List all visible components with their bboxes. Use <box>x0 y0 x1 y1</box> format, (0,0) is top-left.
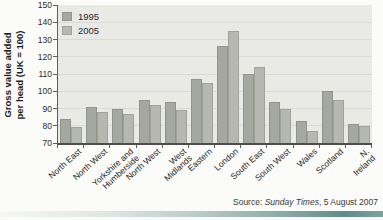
bar-1995-n-ireland-11 <box>348 124 359 143</box>
x-tick-mark-10 <box>319 145 320 148</box>
bar-1995-eastern-5 <box>191 79 202 143</box>
y-tick-label-150: 150 <box>26 0 52 10</box>
x-category-label-eastern-5: Eastern <box>186 147 214 173</box>
bar-2005-scotland-10 <box>333 100 344 143</box>
legend-row-1995: 1995 <box>62 10 99 23</box>
gridline-140 <box>58 22 372 23</box>
y-tick-label-130: 130 <box>26 35 52 45</box>
x-tick-mark-8 <box>266 145 267 148</box>
bar-2005-north-east-0 <box>71 127 82 143</box>
y-axis-title-line1: Gross value added <box>2 0 14 150</box>
y-tick-mark-90 <box>53 108 57 109</box>
bar-2005-south-west-8 <box>280 109 291 144</box>
y-tick-mark-120 <box>53 56 57 57</box>
bar-group-south-east-7 <box>243 67 265 143</box>
y-axis-title-line2: per head (UK = 100) <box>14 0 26 150</box>
gridline-120 <box>58 56 372 57</box>
bar-group-north-west-3 <box>139 100 161 143</box>
y-tick-mark-100 <box>53 91 57 92</box>
bar-group-south-west-8 <box>269 102 291 143</box>
bar-group-west-midlands-4 <box>165 102 187 143</box>
source-publication: Sunday Times <box>265 197 319 207</box>
legend-label-2005: 2005 <box>78 25 99 36</box>
gridline-130 <box>58 39 372 40</box>
y-tick-mark-80 <box>53 125 57 126</box>
bar-1995-wales-9 <box>296 121 307 143</box>
bar-2005-north-west-1 <box>97 112 108 143</box>
x-tick-mark-3 <box>136 145 137 148</box>
bar-2005-wales-9 <box>307 131 318 143</box>
bar-group-scotland-10 <box>322 91 344 143</box>
y-tick-mark-140 <box>53 22 57 23</box>
bar-group-eastern-5 <box>191 79 213 143</box>
bottom-gradient-band <box>0 211 383 217</box>
y-tick-label-140: 140 <box>26 17 52 27</box>
bar-1995-north-west-1 <box>86 107 97 143</box>
x-tick-mark-6 <box>214 145 215 148</box>
bar-2005-yorkshire-and-humberside-2 <box>123 114 134 143</box>
y-tick-label-110: 110 <box>26 69 52 79</box>
x-tick-mark-2 <box>109 145 110 148</box>
bar-2005-south-east-7 <box>254 67 265 143</box>
y-axis-title: Gross value added per head (UK = 100) <box>2 0 26 150</box>
x-category-label-scotland-10: Scotland <box>314 147 345 176</box>
bar-group-n-ireland-11 <box>348 124 370 143</box>
gridline-110 <box>58 74 372 75</box>
bar-1995-west-midlands-4 <box>165 102 176 143</box>
bar-group-wales-9 <box>296 121 318 143</box>
y-tick-label-90: 90 <box>26 104 52 114</box>
bar-group-north-east-0 <box>60 119 82 143</box>
y-tick-label-100: 100 <box>26 86 52 96</box>
bar-1995-yorkshire-and-humberside-2 <box>112 109 123 144</box>
legend-label-1995: 1995 <box>78 11 99 22</box>
x-tick-mark-5 <box>188 145 189 148</box>
source-line: Source: Sunday Times, 5 August 2007 <box>233 197 378 207</box>
source-suffix: , 5 August 2007 <box>319 197 378 207</box>
x-tick-mark-1 <box>83 145 84 148</box>
legend-swatch-2005 <box>62 26 72 35</box>
x-tick-mark-7 <box>240 145 241 148</box>
y-tick-mark-110 <box>53 74 57 75</box>
bar-1995-south-east-7 <box>243 74 254 143</box>
chart-figure: Gross value added per head (UK = 100) 19… <box>0 0 383 220</box>
y-tick-label-70: 70 <box>26 138 52 148</box>
bar-2005-north-west-3 <box>150 105 161 143</box>
x-tick-mark-4 <box>162 145 163 148</box>
bar-group-london-6 <box>217 31 239 143</box>
y-tick-label-120: 120 <box>26 52 52 62</box>
bar-1995-london-6 <box>217 46 228 143</box>
bar-2005-london-6 <box>228 31 239 143</box>
x-tick-mark-12 <box>371 145 372 148</box>
x-category-label-n-ireland-11: N. Ireland <box>346 147 377 178</box>
legend-swatch-1995 <box>62 12 72 21</box>
bar-1995-north-east-0 <box>60 119 71 143</box>
x-tick-mark-9 <box>293 145 294 148</box>
y-tick-label-80: 80 <box>26 121 52 131</box>
x-tick-mark-11 <box>345 145 346 148</box>
bar-1995-south-west-8 <box>269 102 280 143</box>
source-prefix: Source: <box>233 197 265 207</box>
plot-area <box>57 5 372 145</box>
bar-1995-scotland-10 <box>322 91 333 143</box>
bar-2005-eastern-5 <box>202 83 213 143</box>
bar-group-yorkshire-and-humberside-2 <box>112 109 134 144</box>
legend: 1995 2005 <box>62 10 99 38</box>
x-tick-mark-0 <box>57 145 58 148</box>
bar-2005-west-midlands-4 <box>176 110 187 143</box>
y-tick-mark-150 <box>53 5 57 6</box>
legend-row-2005: 2005 <box>62 24 99 37</box>
bar-1995-north-west-3 <box>139 100 150 143</box>
bar-2005-n-ireland-11 <box>359 126 370 143</box>
y-tick-mark-70 <box>53 143 57 144</box>
y-tick-mark-130 <box>53 39 57 40</box>
bar-group-north-west-1 <box>86 107 108 143</box>
